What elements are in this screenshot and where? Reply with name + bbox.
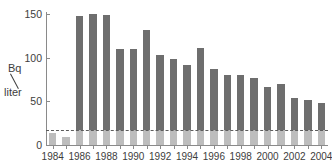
y-tick-mark [46,145,50,146]
y-tick-label: 100 [8,53,42,63]
bar [264,87,271,145]
bar-baseline-segment [210,130,217,145]
bar-baseline-segment [116,130,123,145]
x-tick-label: 2000 [256,151,278,162]
plot-area [46,14,328,145]
y-tick-label: 50 [8,96,42,106]
x-tick-mark [53,145,54,149]
x-tick-label: 2002 [283,151,305,162]
bar-baseline-segment [76,130,83,145]
bar-baseline-segment [264,130,271,145]
x-tick-mark [106,145,107,149]
bar-baseline-segment [170,130,177,145]
bar-baseline-segment [197,130,204,145]
bar-baseline-segment [291,130,298,145]
x-tick-label: 1992 [149,151,171,162]
x-tick-mark [294,145,295,149]
x-tick-mark [254,145,255,149]
bar-baseline-segment [250,130,257,145]
x-tick-label: 1994 [176,151,198,162]
x-tick-mark [321,145,322,149]
bar-baseline-segment [89,130,96,145]
x-tick-mark [268,145,269,149]
x-tick-mark [241,145,242,149]
bar-baseline-segment [143,130,150,145]
bar-baseline-segment [62,137,69,145]
x-tick-mark [187,145,188,149]
x-tick-mark [200,145,201,149]
bar-baseline-segment [183,130,190,145]
bar [89,14,96,145]
bar-baseline-segment [304,130,311,145]
x-tick-label: 2004 [310,151,332,162]
bar [250,78,257,145]
x-tick-mark [227,145,228,149]
bar [224,75,231,145]
bar-baseline-segment [277,130,284,145]
bar-baseline-segment [49,133,56,145]
x-tick-label: 1986 [68,151,90,162]
bar [62,137,69,145]
bar-baseline-segment [156,130,163,145]
bar-chart: Bq liter 050100150 198419861988199019921… [0,0,332,167]
bar [277,84,284,145]
x-tick-mark [80,145,81,149]
x-tick-mark [308,145,309,149]
bar [304,100,311,145]
x-tick-mark [66,145,67,149]
bar [210,69,217,145]
bar-baseline-segment [103,130,110,145]
bar [49,133,56,145]
x-tick-label: 1984 [42,151,64,162]
bar-baseline-segment [224,130,231,145]
x-tick-mark [120,145,121,149]
y-tick-label: 150 [8,9,42,19]
x-tick-mark [281,145,282,149]
x-tick-label: 1988 [95,151,117,162]
bar [237,75,244,145]
bar [170,59,177,145]
x-tick-mark [174,145,175,149]
x-tick-label: 1998 [230,151,252,162]
x-tick-mark [133,145,134,149]
bar-baseline-segment [237,130,244,145]
reference-line [46,130,328,131]
y-axis-label-numerator: Bq [8,62,21,74]
bar [291,98,298,145]
x-tick-mark [160,145,161,149]
x-tick-mark [147,145,148,149]
bar-baseline-segment [318,130,325,145]
x-tick-label: 1990 [122,151,144,162]
bar [76,16,83,145]
x-tick-mark [93,145,94,149]
bar [156,55,163,145]
y-tick-label: 0 [8,140,42,150]
bar [318,103,325,145]
x-tick-label: 1996 [203,151,225,162]
bar [103,15,110,145]
bar [143,30,150,145]
bar-baseline-segment [130,130,137,145]
bar [183,65,190,145]
x-tick-mark [214,145,215,149]
